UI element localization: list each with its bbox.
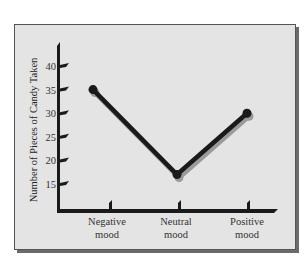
category-labels: NegativemoodNeutralmoodPositivemood bbox=[88, 216, 264, 240]
x-ticks bbox=[109, 200, 250, 209]
data-point bbox=[243, 109, 252, 118]
x-category-label: Positive bbox=[230, 216, 264, 227]
axes: 152025303540 bbox=[46, 42, 279, 213]
line-shadow bbox=[95, 93, 249, 178]
data-point bbox=[173, 170, 182, 179]
y-tick bbox=[60, 134, 69, 139]
x-tick bbox=[247, 200, 250, 209]
data-point bbox=[89, 85, 98, 94]
x-category-label: mood bbox=[164, 229, 189, 240]
y-tick bbox=[60, 63, 69, 68]
y-tick bbox=[60, 157, 69, 162]
data-series bbox=[89, 85, 254, 182]
x-tick bbox=[178, 200, 181, 209]
y-tick bbox=[60, 87, 69, 92]
y-tick-label: 30 bbox=[46, 108, 57, 119]
y-axis bbox=[57, 42, 60, 212]
y-tick-label: 20 bbox=[46, 155, 57, 166]
x-tick bbox=[109, 200, 112, 209]
y-tick-label: 40 bbox=[46, 61, 57, 72]
y-tick bbox=[60, 181, 69, 186]
x-category-label: mood bbox=[235, 229, 260, 240]
y-tick-label: 15 bbox=[46, 179, 57, 190]
x-category-label: Neutral bbox=[160, 216, 192, 227]
x-axis bbox=[57, 209, 278, 213]
y-axis-label: Number of Pieces of Candy Taken bbox=[28, 57, 39, 202]
x-category-label: Negative bbox=[88, 216, 126, 227]
y-tick bbox=[60, 110, 69, 115]
x-category-label: mood bbox=[95, 229, 120, 240]
line-chart: Number of Pieces of Candy Taken 15202530… bbox=[0, 0, 305, 261]
y-tick-label: 35 bbox=[46, 85, 57, 96]
y-tick-label: 25 bbox=[46, 132, 57, 143]
series-line bbox=[93, 90, 247, 175]
